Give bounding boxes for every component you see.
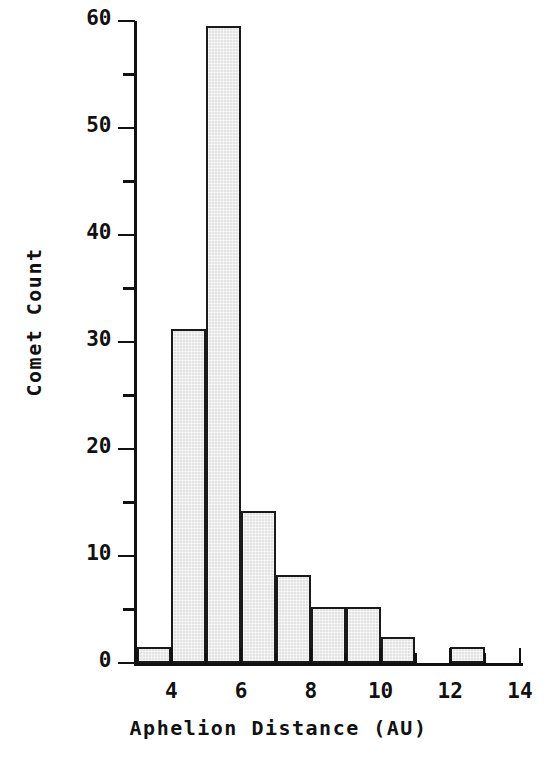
- x-major-tick: [449, 648, 452, 663]
- x-tick-label: 14: [475, 679, 557, 703]
- y-minor-tick: [123, 180, 135, 183]
- x-minor-tick: [275, 653, 278, 663]
- y-major-tick: [118, 234, 135, 237]
- y-minor-tick: [123, 501, 135, 504]
- y-tick-label: 60: [2, 6, 112, 30]
- y-minor-tick: [123, 287, 135, 290]
- y-major-tick: [118, 20, 135, 23]
- y-major-tick: [118, 448, 135, 451]
- x-axis-title: Aphelion Distance (AU): [0, 716, 557, 740]
- y-tick-label: 30: [2, 327, 112, 351]
- histogram-bar: [137, 647, 172, 663]
- y-major-tick: [118, 341, 135, 344]
- x-major-tick: [240, 648, 243, 663]
- y-tick-label: 20: [2, 434, 112, 458]
- x-minor-tick: [344, 653, 347, 663]
- histogram-bar: [241, 511, 276, 663]
- histogram-bar: [171, 329, 206, 663]
- x-minor-tick: [205, 653, 208, 663]
- x-major-tick: [519, 648, 522, 663]
- y-axis-title: Comet Count: [22, 192, 46, 452]
- x-axis-line: [134, 663, 523, 666]
- histogram-figure: 0102030405060468101214 Comet Count Aphel…: [0, 0, 557, 770]
- y-tick-label: 40: [2, 220, 112, 244]
- y-minor-tick: [123, 73, 135, 76]
- y-major-tick: [118, 555, 135, 558]
- y-tick-label: 10: [2, 541, 112, 565]
- x-minor-tick: [135, 653, 138, 663]
- x-minor-tick: [484, 653, 487, 663]
- histogram-bar: [450, 647, 485, 663]
- x-major-tick: [379, 648, 382, 663]
- y-major-tick: [118, 662, 135, 665]
- y-minor-tick: [123, 394, 135, 397]
- plot-area: 0102030405060468101214: [0, 0, 557, 770]
- y-tick-label: 50: [2, 113, 112, 137]
- y-axis-line: [134, 21, 137, 666]
- x-major-tick: [170, 648, 173, 663]
- y-major-tick: [118, 127, 135, 130]
- x-minor-tick: [414, 653, 417, 663]
- y-minor-tick: [123, 608, 135, 611]
- y-tick-label: 0: [2, 648, 112, 672]
- x-major-tick: [310, 648, 313, 663]
- histogram-bar: [311, 607, 346, 663]
- histogram-bar: [381, 637, 416, 663]
- histogram-bar: [276, 575, 311, 663]
- histogram-bar: [346, 607, 381, 663]
- histogram-bar: [206, 26, 241, 663]
